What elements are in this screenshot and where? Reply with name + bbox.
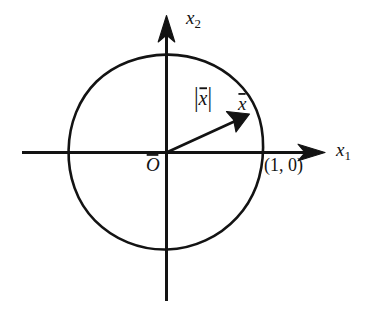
origin-label: O bbox=[146, 155, 160, 174]
x2-axis-label-subscript: 2 bbox=[194, 16, 200, 31]
magnitude-symbol-with-arrow: x bbox=[199, 88, 208, 108]
origin-symbol-with-arrow: O bbox=[146, 155, 160, 174]
x1-axis-label: x1 bbox=[336, 140, 351, 163]
position-vector-x bbox=[167, 112, 250, 153]
figure-canvas bbox=[0, 0, 376, 317]
x2-axis bbox=[158, 16, 175, 302]
x2-axis-label: x2 bbox=[186, 8, 201, 31]
vector-magnitude-label: |x| bbox=[194, 86, 212, 109]
vector-x-arrowhead-icon bbox=[227, 112, 250, 133]
x1-axis-label-subscript: 1 bbox=[344, 148, 350, 163]
origin-symbol: O bbox=[146, 154, 160, 175]
magnitude-symbol: x bbox=[199, 87, 208, 109]
magnitude-close-bar: | bbox=[208, 84, 213, 111]
unit-point-label: (1, 0) bbox=[264, 156, 303, 174]
vector-x-symbol: x bbox=[238, 93, 246, 114]
vector-x-symbol-with-arrow: x bbox=[238, 94, 246, 113]
vector-x-label: x bbox=[238, 94, 246, 113]
vector-x-shaft bbox=[167, 118, 244, 153]
unit-circle-vector-figure: x2 x1 |x| x O (1, 0) bbox=[0, 0, 376, 317]
